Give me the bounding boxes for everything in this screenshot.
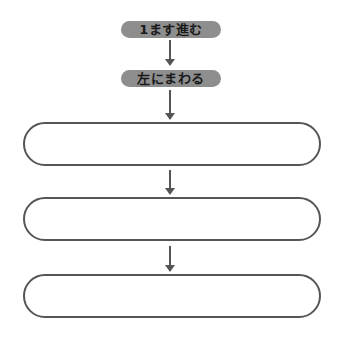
step-1-move-forward: 1ます進む [121, 21, 221, 38]
blank-step-box-3[interactable] [23, 274, 321, 318]
arrow-down-icon [169, 40, 171, 60]
arrow-down-icon [169, 90, 171, 114]
arrow-down-icon [169, 246, 171, 266]
blank-step-box-1[interactable] [23, 122, 321, 166]
step-2-turn-left: 左にまわる [121, 70, 221, 87]
blank-step-box-2[interactable] [23, 197, 321, 241]
arrow-down-icon [169, 170, 171, 189]
